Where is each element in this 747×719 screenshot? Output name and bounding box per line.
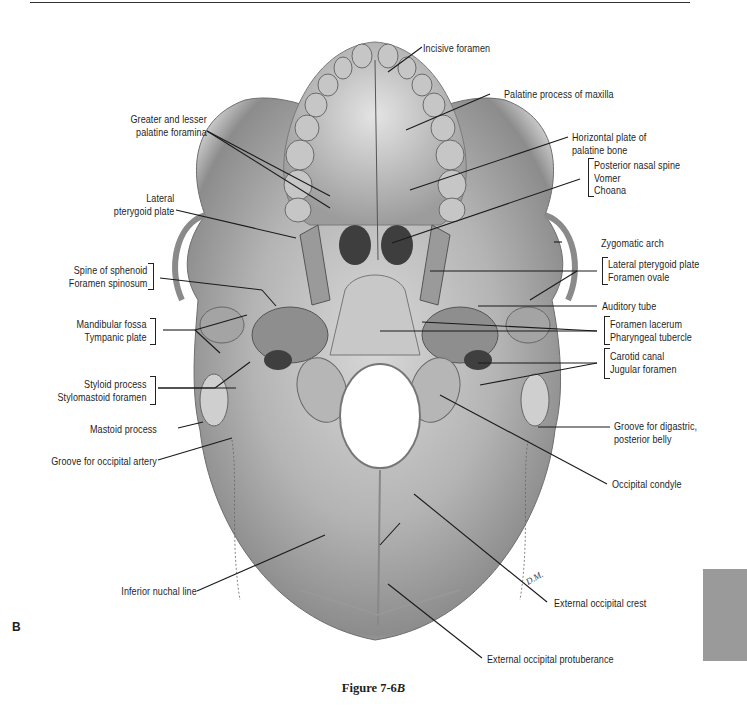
chapter-tab xyxy=(703,569,747,661)
label-lateral-pterygoid-plate: Lateral pterygoid plate xyxy=(113,192,174,217)
label-auditory-tube: Auditory tube xyxy=(602,300,656,313)
bracket xyxy=(150,376,156,405)
label-inferior-nuchal-line: Inferior nuchal line xyxy=(121,585,197,598)
label-horizontal-plate-of-palatine-bone: Horizontal plate of palatine bone xyxy=(572,131,646,156)
label-nasal-group: Posterior nasal spine Vomer Choana xyxy=(594,159,680,197)
label-mastoid-process: Mastoid process xyxy=(90,423,157,436)
bracket xyxy=(150,318,156,345)
label-greater-lesser-palatine-foramina: Greater and lesser palatine foramina xyxy=(131,113,207,138)
label-external-occipital-protuberance: External occipital protuberance xyxy=(487,653,614,666)
label-incisive-foramen: Incisive foramen xyxy=(423,42,490,55)
label-zygomatic-arch: Zygomatic arch xyxy=(601,237,664,250)
bracket xyxy=(148,263,154,290)
panel-letter: B xyxy=(12,620,21,634)
label-groove-for-occipital-artery: Groove for occipital artery xyxy=(51,455,157,468)
figure-caption: Figure 7-6B xyxy=(0,681,747,696)
label-pterygoid-group: Lateral pterygoid plate Foramen ovale xyxy=(608,258,699,283)
label-occipital-condyle: Occipital condyle xyxy=(612,478,682,491)
svg-text:D.M.: D.M. xyxy=(523,569,545,587)
label-external-occipital-crest: External occipital crest xyxy=(554,597,646,610)
label-carotid-group: Carotid canal Jugular foramen xyxy=(610,350,677,375)
label-mandibular-fossa-group: Mandibular fossa Tympanic plate xyxy=(77,318,147,343)
label-spine-of-sphenoid-group: Spine of sphenoid Foramen spinosum xyxy=(68,264,147,289)
label-lacerum-group: Foramen lacerum Pharyngeal tubercle xyxy=(610,318,692,343)
label-styloid-process-group: Styloid process Stylomastoid foramen xyxy=(58,378,147,403)
label-palatine-process-of-maxilla: Palatine process of maxilla xyxy=(504,88,614,101)
label-groove-for-digastric: Groove for digastric, posterior belly xyxy=(614,420,697,445)
